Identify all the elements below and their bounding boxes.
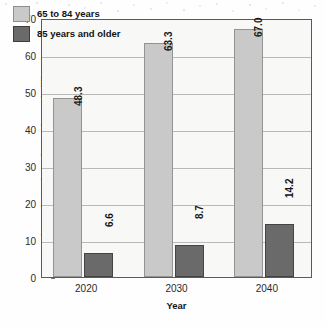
bar-value-label-2030-series-2: 8.7	[194, 205, 205, 219]
chart-legend: 65 to 84 years 85 years and older	[13, 6, 143, 46]
legend-label-85-and-older: 85 years and older	[37, 26, 120, 39]
legend-item-65-to-84: 65 to 84 years	[13, 6, 143, 22]
x-axis-title: Year	[41, 300, 312, 311]
legend-swatch-icon-dark	[13, 26, 30, 42]
plot-area: 48.36.663.38.767.014.2	[41, 19, 312, 278]
plot-inner: 48.36.663.38.767.014.2	[42, 20, 311, 277]
y-tick-label-40: 40	[14, 125, 36, 136]
x-tick-label-2040: 2040	[256, 283, 278, 294]
x-tick-label-2030: 2030	[165, 283, 187, 294]
bar-value-label-2020-series-1: 48.3	[73, 87, 84, 106]
gridline-40	[42, 131, 311, 132]
y-tick-label-20: 20	[14, 199, 36, 210]
y-tick-label-60: 60	[14, 51, 36, 62]
x-tick-label-2020: 2020	[75, 283, 97, 294]
bar-value-label-2040-series-2: 14.2	[284, 179, 295, 198]
y-axis-ticks: 010203040506070	[14, 0, 36, 327]
bar-value-label-2020-series-2: 6.6	[104, 213, 115, 227]
bar-value-label-2040-series-1: 67.0	[253, 18, 264, 37]
gridline-30	[42, 168, 311, 169]
gridline-60	[42, 57, 311, 58]
gridline-20	[42, 205, 311, 206]
legend-label-65-to-84: 65 to 84 years	[37, 6, 100, 19]
bar-2020-series-2	[84, 253, 113, 277]
bar-value-label-2030-series-1: 63.3	[163, 31, 174, 50]
y-tick-label-50: 50	[14, 88, 36, 99]
bar-2040-series-1	[234, 29, 263, 277]
legend-swatch-icon-light	[13, 6, 30, 22]
legend-item-85-and-older: 85 years and older	[13, 26, 143, 42]
bar-2020-series-1	[53, 98, 82, 277]
bar-2030-series-1	[144, 43, 173, 277]
y-tick-mark	[51, 278, 55, 279]
bar-chart-figure: Estimated Number of Americans (millions)…	[0, 0, 326, 327]
y-tick-label-30: 30	[14, 162, 36, 173]
y-tick-label-10: 10	[14, 236, 36, 247]
y-tick-label-0: 0	[14, 273, 36, 284]
bar-2030-series-2	[175, 245, 204, 277]
bar-2040-series-2	[265, 224, 294, 277]
